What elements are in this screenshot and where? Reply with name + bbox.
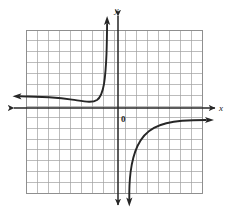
- graph-screenshot: y x 0: [0, 0, 230, 215]
- y-axis-label: y: [114, 5, 119, 15]
- function-graph-figure: y x 0: [0, 0, 230, 215]
- x-axis-label: x: [218, 103, 223, 113]
- origin-label: 0: [121, 114, 126, 124]
